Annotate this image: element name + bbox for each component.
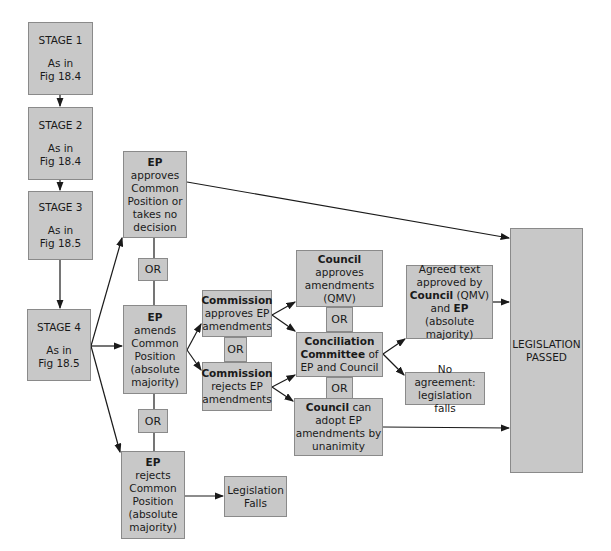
commission-approves-box: Commission approves EP amendments [202, 290, 272, 337]
conciliation-committee-box: Conciliation Committee of EP and Council [296, 332, 383, 377]
or-box: OR [326, 307, 353, 332]
actor-label: Commission [201, 294, 272, 307]
stage-title: STAGE 3 [38, 201, 82, 214]
box-text: rejects EP [201, 380, 272, 393]
stage-text: As in [48, 142, 74, 155]
box-text: No agreement: [406, 363, 484, 389]
ep-rejects-box: EP rejects Common Position (absolute maj… [121, 451, 185, 539]
box-text: Position [128, 495, 177, 508]
box-text: Agreed text [407, 263, 492, 276]
box-text: majority) [128, 521, 177, 534]
box-text: (QMV) [305, 292, 374, 305]
stage-title: STAGE 1 [38, 34, 82, 47]
stage-3-box: STAGE 3 As in Fig 18.5 [28, 191, 93, 260]
council-approves-box: Council approves amendments (QMV) [296, 250, 383, 307]
agreed-text-box: Agreed text approved by Council (QMV) an… [406, 265, 493, 339]
box-text: (absolute [128, 508, 177, 521]
no-agreement-box: No agreement: legislation falls [405, 372, 485, 405]
box-text: amendments by [296, 427, 382, 440]
actor-label: Commission [201, 367, 272, 380]
box-text: majority) [407, 328, 492, 341]
legislation-falls-box: Legislation Falls [224, 476, 287, 517]
or-label: OR [227, 343, 243, 356]
box-text: Position [130, 350, 179, 363]
commission-rejects-box: Commission rejects EP amendments [202, 362, 272, 411]
box-text: amendments [305, 279, 374, 292]
box-text: majority) [130, 376, 179, 389]
box-text: can [349, 401, 371, 413]
box-text: decision [128, 221, 183, 234]
box-text: approves EP [201, 307, 272, 320]
or-label: OR [331, 313, 347, 326]
box-text: Common [128, 182, 183, 195]
box-text: Common [130, 337, 179, 350]
actor-label: Conciliation [300, 335, 378, 348]
or-box: OR [224, 337, 247, 362]
box-text: (absolute [130, 363, 179, 376]
council-adopt-box: Council can adopt EP amendments by unani… [294, 398, 383, 456]
box-text: (absolute [425, 315, 474, 327]
ep-amends-box: EP amends Common Position (absolute majo… [123, 305, 187, 394]
box-text: unanimity [296, 440, 382, 453]
stage-text: Fig 18.4 [40, 70, 82, 83]
box-text: takes no [128, 208, 183, 221]
box-text: amendments [201, 393, 272, 406]
box-text: approves [305, 266, 374, 279]
actor-label: Council [306, 401, 349, 413]
box-text: Common [128, 482, 177, 495]
actor-label: Council [305, 253, 374, 266]
stage-text: Fig 18.4 [40, 155, 82, 168]
legislation-passed-box: LEGISLATION PASSED [510, 228, 583, 473]
or-label: OR [145, 415, 161, 428]
stage-text: As in [48, 57, 74, 70]
box-text: and [431, 302, 454, 314]
box-text: legislation falls [406, 389, 484, 415]
actor-label: Committee [300, 348, 365, 360]
stage-1-box: STAGE 1 As in Fig 18.4 [28, 22, 93, 95]
stage-text: Fig 18.5 [38, 357, 80, 370]
actor-label: EP [128, 456, 177, 469]
box-text: Position or [128, 195, 183, 208]
box-text: Falls [227, 497, 284, 510]
box-text: amends [130, 324, 179, 337]
stage-2-box: STAGE 2 As in Fig 18.4 [28, 107, 93, 180]
ep-approves-box: EP approves Common Position or takes no … [123, 151, 187, 238]
or-label: OR [145, 263, 161, 276]
stage-text: As in [46, 344, 72, 357]
box-text: LEGISLATION [512, 338, 580, 351]
stage-title: STAGE 4 [37, 321, 81, 334]
box-text: (QMV) [453, 289, 489, 301]
box-text: rejects [128, 469, 177, 482]
actor-label: EP [130, 311, 179, 324]
or-box: OR [138, 258, 168, 281]
stage-text: As in [48, 224, 74, 237]
stage-text: Fig 18.5 [40, 237, 82, 250]
box-text: Legislation [227, 484, 284, 497]
box-text: of [365, 348, 378, 360]
box-text: approves [128, 169, 183, 182]
stage-title: STAGE 2 [38, 119, 82, 132]
stage-4-box: STAGE 4 As in Fig 18.5 [27, 309, 91, 381]
actor-label: EP [454, 302, 469, 314]
box-text: EP and Council [300, 361, 378, 374]
box-text: PASSED [512, 351, 580, 364]
actor-label: Council [410, 289, 453, 301]
or-box: OR [138, 409, 168, 433]
or-label: OR [331, 382, 347, 395]
box-text: approved by [407, 276, 492, 289]
or-box: OR [326, 377, 353, 400]
box-text: adopt EP [296, 414, 382, 427]
actor-label: EP [128, 156, 183, 169]
box-text: amendments [201, 320, 272, 333]
